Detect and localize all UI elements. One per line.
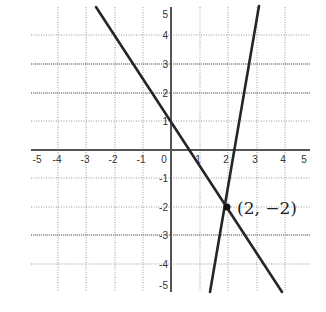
x-tick-label: 0 <box>161 154 167 165</box>
x-tick-label: 4 <box>280 154 286 165</box>
y-tick-label: -5 <box>159 280 168 291</box>
x-tick-label: -2 <box>109 154 118 165</box>
x-tick-label: -3 <box>81 154 90 165</box>
x-tick-label: -1 <box>137 154 146 165</box>
x-tick-label: -5 <box>33 154 42 165</box>
coordinate-plane: -5 -4 -3 -2 -1 0 1 2 3 4 5 5 4 3 2 1 -1 … <box>0 0 326 312</box>
y-tick-label: -2 <box>159 202 168 213</box>
y-tick-label: 5 <box>162 9 168 20</box>
y-tick-label: -3 <box>159 230 168 241</box>
y-tick-label: 2 <box>162 88 168 99</box>
intersection-point <box>224 204 231 211</box>
y-tick-label: 4 <box>162 30 168 41</box>
y-tick-label: -4 <box>159 259 168 270</box>
x-tick-label: -4 <box>53 154 62 165</box>
y-tick-label: 3 <box>162 59 168 70</box>
x-tick-label: 3 <box>252 154 258 165</box>
y-tick-label: -1 <box>159 173 168 184</box>
point-annotation: (2, −2) <box>237 198 297 218</box>
x-tick-labels: -5 -4 -3 -2 -1 0 1 2 3 4 5 <box>33 154 308 165</box>
x-tick-label: 5 <box>301 154 307 165</box>
x-tick-label: 2 <box>223 154 229 165</box>
